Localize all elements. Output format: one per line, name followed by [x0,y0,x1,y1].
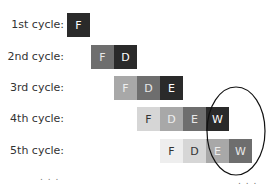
highlight-ellipse [0,0,278,187]
